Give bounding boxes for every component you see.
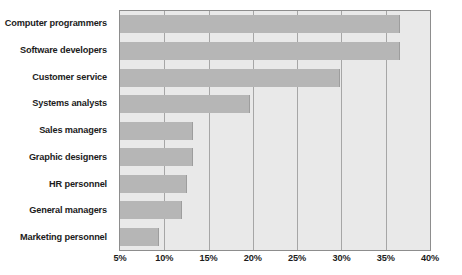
bar-row [120, 91, 430, 118]
category-label: HR personnel [0, 171, 113, 198]
bar [120, 175, 187, 193]
bar-row [120, 144, 430, 171]
bar [120, 95, 250, 113]
bar-row [120, 197, 430, 224]
bar-row [120, 11, 430, 38]
category-label: Graphic designers [0, 144, 113, 171]
plot-area [119, 10, 431, 251]
category-label: Sales managers [0, 117, 113, 144]
category-label: Software developers [0, 37, 113, 64]
x-tick-label: 5% [113, 253, 126, 263]
category-axis-labels: Computer programmers Software developers… [0, 10, 113, 251]
category-label: Systems analysts [0, 90, 113, 117]
x-tick-label: 30% [332, 253, 350, 263]
value-axis: 5%10%15%20%25%30%35%40% [119, 253, 431, 269]
x-tick-label: 35% [377, 253, 395, 263]
x-tick-label: 15% [200, 253, 218, 263]
bar-row [120, 170, 430, 197]
bar [120, 228, 159, 246]
bar [120, 122, 193, 140]
x-tick-label: 20% [244, 253, 262, 263]
category-label: Marketing personnel [0, 224, 113, 251]
bar-chart: Computer programmers Software developers… [0, 0, 462, 275]
bars-layer [120, 11, 430, 250]
bar-row [120, 117, 430, 144]
x-tick-label: 25% [288, 253, 306, 263]
bar [120, 148, 193, 166]
bar-row [120, 38, 430, 65]
bar [120, 69, 340, 87]
x-tick-label: 10% [155, 253, 173, 263]
bar-row [120, 224, 430, 251]
category-label: Computer programmers [0, 10, 113, 37]
bar-row [120, 64, 430, 91]
x-tick-label: 40% [421, 253, 439, 263]
category-label: General managers [0, 197, 113, 224]
bar [120, 15, 400, 33]
bar [120, 42, 400, 60]
category-label: Customer service [0, 64, 113, 91]
bar [120, 201, 182, 219]
